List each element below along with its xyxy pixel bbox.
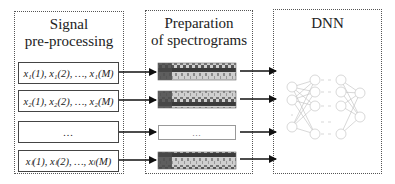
arrows-signal-to-spectrogram xyxy=(119,72,156,160)
nn-hidden-layer-n xyxy=(336,75,346,139)
nn-output-layer xyxy=(355,88,365,122)
spectrogram-ellipsis: … xyxy=(158,125,236,140)
nn-input-layer xyxy=(287,82,297,132)
neural-network-icon xyxy=(287,75,365,139)
arrows-spectrogram-to-dnn xyxy=(240,71,276,159)
nn-hidden-layer-1 xyxy=(310,75,320,139)
nn-hidden-ellipsis xyxy=(321,80,335,134)
spectrogram-2 xyxy=(158,91,236,108)
spectrogram-1 xyxy=(158,63,236,80)
pipeline-diagram: Signal pre-processing x₁(1), x₁(2), …, x… xyxy=(0,0,395,184)
spectrogram-L xyxy=(158,152,236,169)
diagram-graphics xyxy=(0,0,395,184)
